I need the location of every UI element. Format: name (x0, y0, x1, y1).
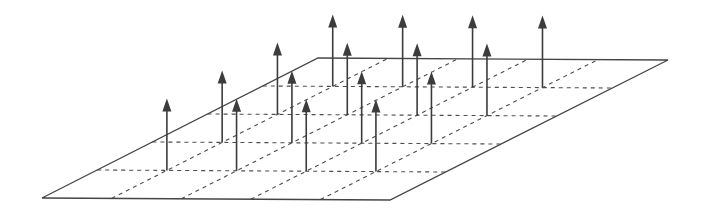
figure-container: Vector field of uniform upward arrows on… (0, 0, 702, 217)
vector-field-figure (0, 0, 702, 217)
